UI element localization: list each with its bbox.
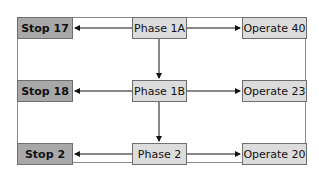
operate-20-label: Operate 20: [243, 148, 305, 161]
phase-2-label: Phase 2: [138, 148, 181, 161]
stop-17-box: Stop 17: [17, 17, 73, 39]
phase-1a-label: Phase 1A: [134, 22, 185, 35]
phase-1a-box: Phase 1A: [132, 17, 187, 39]
phase-1b-box: Phase 1B: [132, 80, 187, 102]
stop-18-box: Stop 18: [17, 80, 73, 102]
operate-40-box: Operate 40: [242, 17, 307, 39]
stop-2-label: Stop 2: [25, 148, 65, 161]
stop-2-box: Stop 2: [17, 143, 73, 165]
operate-20-box: Operate 20: [242, 143, 307, 165]
phase-1b-label: Phase 1B: [134, 85, 185, 98]
operate-40-label: Operate 40: [243, 22, 305, 35]
operate-23-box: Operate 23: [242, 80, 307, 102]
stop-17-label: Stop 17: [21, 22, 69, 35]
phase-2-box: Phase 2: [132, 143, 187, 165]
stop-18-label: Stop 18: [21, 85, 69, 98]
operate-23-label: Operate 23: [243, 85, 305, 98]
